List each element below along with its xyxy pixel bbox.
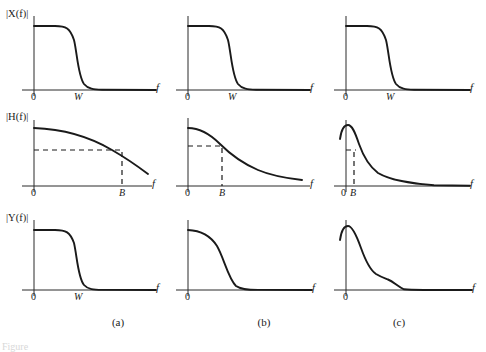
curve-y-b: [188, 230, 312, 290]
xtick-zero-a: 0: [31, 92, 36, 102]
curve-y-c: [340, 226, 472, 290]
xtick-zero-h-c: 0: [341, 188, 346, 198]
panel-b-h: 0 B f: [162, 106, 324, 210]
caption-column-c: (c): [379, 316, 419, 328]
xaxis-label-h-b: f: [310, 178, 313, 189]
xtick-W-c: W: [386, 92, 394, 102]
panel-a-h: |H(f)| 0 B f: [0, 106, 162, 210]
xtick-zero-h-b: 0: [185, 188, 190, 198]
xtick-zero-c: 0: [343, 92, 348, 102]
curve-x-b: [188, 26, 310, 90]
caption-column-a: (a): [98, 316, 138, 328]
panel-a-y: |Y(f)| 0 W f: [0, 208, 162, 312]
curve-y-a: [34, 230, 156, 290]
xtick-B-c: B: [350, 188, 356, 198]
panel-c-h: 0 B f: [324, 106, 486, 210]
xaxis-label-h-a: f: [152, 178, 155, 189]
xaxis-label-b: f: [310, 82, 313, 93]
xaxis-label-c: f: [470, 82, 473, 93]
curve-h-a: [34, 128, 148, 174]
panel-b-x: 0 W f: [162, 2, 324, 106]
ylabel-x-a: |X(f)|: [6, 9, 28, 20]
xaxis-label-y-c: f: [472, 282, 475, 293]
panel-c-y: 0 f: [324, 208, 486, 312]
xtick-B-a: B: [119, 188, 125, 198]
xaxis-label-y-b: f: [312, 282, 315, 293]
xtick-B-b: B: [219, 188, 225, 198]
xtick-zero-y-c: 0: [343, 292, 348, 302]
xtick-zero-h-a: 0: [31, 188, 36, 198]
panel-b-y: 0 f: [162, 208, 324, 312]
xtick-W-b: W: [228, 92, 236, 102]
xtick-W-a: W: [74, 92, 82, 102]
ylabel-y-a: |Y(f)|: [6, 213, 28, 224]
curve-h-b: [188, 128, 302, 180]
curve-x-c: [346, 26, 470, 90]
xtick-zero-y-b: 0: [185, 292, 190, 302]
caption-column-b: (b): [244, 316, 284, 328]
curve-h-c: [340, 125, 470, 186]
xtick-W-y-a: W: [74, 292, 82, 302]
xaxis-label-y-a: f: [156, 282, 159, 293]
curve-x-a: [34, 26, 156, 90]
ylabel-h-a: |H(f)|: [6, 112, 28, 123]
figure-caption-fragment: Figure: [2, 341, 28, 352]
xaxis-label-a: f: [156, 82, 159, 93]
xtick-zero-y-a: 0: [31, 292, 36, 302]
panel-a-x: |X(f)| 0 W f: [0, 2, 162, 106]
panel-c-x: 0 W f: [324, 2, 486, 106]
xaxis-label-h-c: f: [470, 178, 473, 189]
xtick-zero-b: 0: [185, 92, 190, 102]
